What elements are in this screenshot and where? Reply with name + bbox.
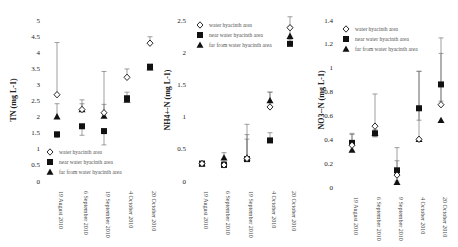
y-tick-label: 0.5 bbox=[31, 161, 40, 169]
data-point-filled-triangle bbox=[438, 117, 445, 123]
series-filled-square bbox=[200, 39, 293, 165]
data-point-filled-square bbox=[372, 130, 378, 136]
y-tick-label: 1 bbox=[183, 113, 187, 121]
y-tick-label: 1.4 bbox=[324, 17, 333, 25]
data-point-open-diamond bbox=[147, 40, 153, 46]
y-tick-label: 0 bbox=[37, 178, 41, 186]
y-tick-label: 3.5 bbox=[31, 65, 40, 73]
data-point-open-diamond bbox=[124, 74, 130, 80]
chart-panel-3: 00.20.40.60.811.21.4NO3--N (mg L-1)19 Au… bbox=[317, 17, 448, 241]
y-axis-label: NH4+-N (mg L-1) bbox=[163, 69, 172, 130]
legend-filled-square-icon bbox=[197, 32, 203, 38]
legend-filled-square-icon bbox=[47, 159, 53, 165]
y-tick-label: 4.5 bbox=[31, 33, 40, 41]
legend-label: water hyacinth area bbox=[59, 149, 103, 155]
data-point-filled-square bbox=[438, 81, 444, 87]
x-tick-label: 20 October 2010 bbox=[291, 191, 297, 231]
x-tick-label: 20 October 2010 bbox=[442, 197, 448, 237]
y-tick-label: 1.5 bbox=[177, 81, 186, 89]
y-tick-label: 5 bbox=[37, 17, 41, 25]
data-point-filled-triangle bbox=[54, 113, 61, 119]
legend: water hyacinth areanear water hyacinth a… bbox=[197, 22, 273, 48]
y-tick-label: 2 bbox=[183, 49, 187, 57]
legend-label: water hyacinth area bbox=[209, 22, 253, 28]
y-axis-ticks: 00.511.522.533.544.55 bbox=[31, 17, 40, 186]
legend-filled-triangle-icon bbox=[47, 169, 54, 175]
data-point-open-diamond bbox=[54, 92, 60, 98]
legend-label: water hyacinth area bbox=[355, 26, 399, 32]
data-point-filled-square bbox=[79, 123, 85, 129]
x-tick-label: 6 September 2010 bbox=[83, 191, 89, 235]
y-tick-label: 0.4 bbox=[324, 136, 333, 144]
y-tick-label: 0.2 bbox=[324, 160, 333, 168]
series-open-diamond bbox=[200, 17, 293, 165]
legend-open-diamond-icon bbox=[47, 149, 53, 155]
data-point-filled-square bbox=[287, 41, 293, 47]
figure: 00.511.522.533.544.55TN (mg L-1)19 Augus… bbox=[0, 0, 458, 247]
y-tick-label: 3 bbox=[37, 81, 41, 89]
y-tick-label: 2.5 bbox=[177, 17, 186, 25]
y-axis-label: NO3--N (mg L-1) bbox=[317, 70, 326, 129]
y-tick-label: 1.5 bbox=[31, 129, 40, 137]
data-point-filled-square bbox=[416, 105, 422, 111]
y-tick-label: 2.5 bbox=[31, 97, 40, 105]
y-tick-label: 0.5 bbox=[177, 145, 186, 153]
series-filled-triangle bbox=[55, 64, 153, 116]
legend-filled-triangle-icon bbox=[197, 42, 204, 48]
legend-label: far from water hyacinth area bbox=[59, 169, 122, 175]
y-tick-label: 0 bbox=[183, 178, 187, 186]
chart-panel-2: 00.511.522.5NH4+-N (mg L-1)19 August 201… bbox=[163, 17, 297, 238]
data-point-open-diamond bbox=[267, 104, 273, 110]
legend-filled-triangle-icon bbox=[343, 46, 350, 52]
legend: water hyacinth areanear water hyacinth a… bbox=[47, 149, 123, 175]
data-point-filled-square bbox=[101, 128, 107, 134]
x-tick-label: 19 August 2010 bbox=[203, 191, 209, 229]
x-axis-labels: 19 August 20106 September 20109 Septembe… bbox=[353, 197, 448, 241]
legend-label: near water hyacinth area bbox=[355, 36, 409, 42]
data-point-filled-triangle bbox=[221, 154, 228, 160]
legend-label: far from water hyacinth area bbox=[355, 46, 418, 52]
data-point-filled-square bbox=[124, 95, 130, 101]
legend-label: near water hyacinth area bbox=[209, 32, 263, 38]
data-point-open-diamond bbox=[101, 110, 107, 116]
y-axis-label: TN (mg L-1) bbox=[9, 78, 18, 121]
x-tick-label: 19 August 2010 bbox=[353, 197, 359, 235]
series-open-diamond bbox=[55, 37, 153, 113]
x-tick-label: 9 September 2010 bbox=[398, 197, 404, 241]
x-tick-label: 4 October 2010 bbox=[420, 197, 426, 234]
data-point-open-diamond bbox=[438, 101, 444, 107]
y-tick-label: 2 bbox=[37, 113, 41, 121]
x-tick-label: 19 September 2010 bbox=[248, 191, 254, 238]
chart-panel-1: 00.511.522.533.544.55TN (mg L-1)19 Augus… bbox=[9, 17, 157, 238]
legend-label: near water hyacinth area bbox=[59, 159, 113, 165]
x-tick-label: 19 August 2010 bbox=[58, 191, 64, 229]
x-axis-labels: 19 August 20106 September 201019 Septemb… bbox=[58, 191, 157, 238]
data-point-open-diamond bbox=[287, 25, 293, 31]
y-tick-label: 0 bbox=[330, 184, 334, 192]
legend-filled-square-icon bbox=[343, 36, 349, 42]
series-open-diamond bbox=[350, 38, 444, 175]
y-axis-ticks: 00.511.522.5 bbox=[177, 17, 186, 186]
legend-open-diamond-icon bbox=[343, 26, 349, 32]
x-tick-label: 4 October 2010 bbox=[271, 191, 277, 228]
x-axis-labels: 19 August 20106 September 201019 Septemb… bbox=[203, 191, 297, 238]
data-point-filled-square bbox=[267, 137, 273, 143]
data-point-filled-triangle bbox=[267, 97, 274, 103]
y-tick-label: 1 bbox=[330, 64, 334, 72]
data-point-filled-triangle bbox=[394, 179, 401, 185]
y-tick-label: 4 bbox=[37, 49, 41, 57]
legend-label: far from water hyacinth area bbox=[209, 42, 272, 48]
data-point-filled-triangle bbox=[287, 33, 294, 39]
x-tick-label: 6 September 2010 bbox=[376, 197, 382, 241]
series-filled-square bbox=[350, 53, 444, 181]
y-tick-label: 1 bbox=[37, 145, 41, 153]
data-point-filled-square bbox=[147, 64, 153, 70]
x-tick-label: 4 October 2010 bbox=[128, 191, 134, 228]
x-tick-label: 19 September 2010 bbox=[105, 191, 111, 238]
chart-figure: 00.511.522.533.544.55TN (mg L-1)19 Augus… bbox=[0, 0, 458, 247]
y-tick-label: 1.2 bbox=[324, 40, 333, 48]
data-point-open-diamond bbox=[372, 123, 378, 129]
x-tick-label: 6 September 2010 bbox=[225, 191, 231, 235]
legend: water hyacinth areanear water hyacinth a… bbox=[343, 26, 419, 52]
data-point-filled-square bbox=[54, 131, 60, 137]
